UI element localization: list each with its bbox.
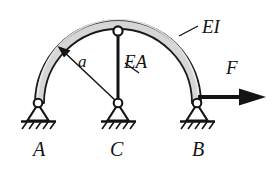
arch-structure-figure: A C B EI EA a F: [0, 0, 274, 173]
arch-stiffness-label: EI: [202, 17, 220, 36]
ei-leader: [179, 26, 198, 36]
support-label-C: C: [110, 139, 123, 159]
support-A: [21, 99, 56, 129]
support-C-hatching: [102, 122, 135, 129]
support-B-hatching: [181, 122, 214, 129]
support-A-hinge-icon: [34, 99, 43, 108]
support-B: [180, 99, 215, 129]
support-C-hinge-icon: [114, 99, 123, 108]
vertical-tie-column: [113, 26, 122, 103]
support-label-B: B: [192, 139, 204, 159]
support-label-A: A: [33, 139, 45, 159]
radius-dimension-a: [58, 46, 117, 101]
crown-hinge-icon: [113, 26, 122, 35]
support-C: [101, 99, 136, 129]
column-stiffness-label: EA: [124, 52, 147, 71]
force-arrow-F: [198, 89, 266, 106]
ei-leader-line: [179, 26, 198, 36]
radius-leader-line: [63, 51, 116, 101]
radius-label: a: [78, 53, 87, 70]
support-B-hinge-icon: [193, 99, 202, 108]
force-arrowhead-icon: [239, 89, 266, 106]
support-A-hatching: [22, 122, 55, 129]
force-label: F: [226, 58, 238, 77]
